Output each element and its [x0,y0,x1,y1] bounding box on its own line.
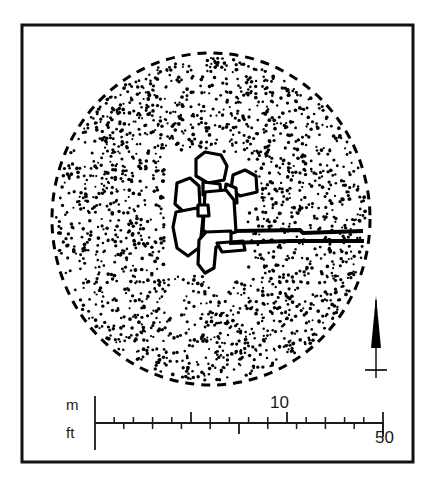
room-north [196,152,227,183]
scale-tick-label-50: 50 [375,428,394,448]
site-plan-figure: m ft 10 50 [0,0,433,482]
scale-unit-label-meters: m [66,396,79,413]
scale-unit-label-feet: ft [66,424,74,441]
plan-drawing [0,0,433,482]
scale-tick-label-10: 10 [270,393,289,413]
lower-wall-line [231,241,362,243]
room-west-connector [198,205,209,216]
